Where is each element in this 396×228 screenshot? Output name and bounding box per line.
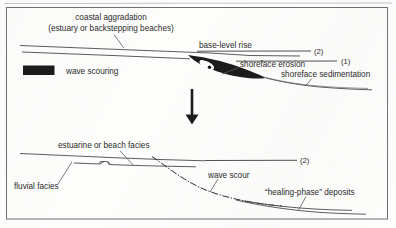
label-marker-2-lower: (2) [300,156,310,165]
wave-scouring-lens-dot [208,66,211,69]
geological-cross-section-diagram: coastal aggradation (estuary or backstep… [0,0,396,228]
label-fluvial-facies: fluvial facies [14,182,59,191]
label-marker-1: (1) [341,57,351,66]
label-base-level-rise: base-level rise [199,41,252,50]
label-shoreface-sedimentation: shoreface sedimentation [281,70,371,79]
figure-root: coastal aggradation (estuary or backstep… [0,0,396,228]
label-coastal-aggradation-line1: coastal aggradation [75,13,147,22]
label-wave-scouring: wave scouring [65,67,119,76]
label-shoreface-erosion: shoreface erosion [240,60,306,69]
label-healing-phase-deposits: “healing-phase” deposits [265,188,355,197]
label-marker-2-upper: (2) [314,47,324,56]
page-edge-line-top [4,3,392,4]
label-coastal-aggradation-line2: (estuary or backstepping beaches) [48,24,174,33]
legend-swatch-wave-scouring [23,66,55,76]
label-wave-scour: wave scour [207,171,250,180]
label-estuarine-or-beach-facies: estuarine or beach facies [58,141,149,150]
